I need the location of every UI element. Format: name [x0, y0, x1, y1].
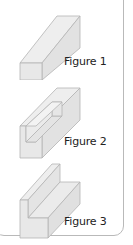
figure-1: Figure 1 — [0, 0, 133, 78]
notched-prism-icon — [0, 80, 133, 160]
figure-2: Figure 2 — [0, 80, 133, 158]
figure-3: Figure 3 — [0, 160, 133, 238]
figure-3-label: Figure 3 — [64, 215, 106, 228]
figure-2-label: Figure 2 — [64, 135, 106, 148]
l-shaped-prism-icon — [0, 160, 133, 240]
rectangular-prism-icon — [0, 0, 133, 80]
figure-1-label: Figure 1 — [64, 55, 106, 68]
